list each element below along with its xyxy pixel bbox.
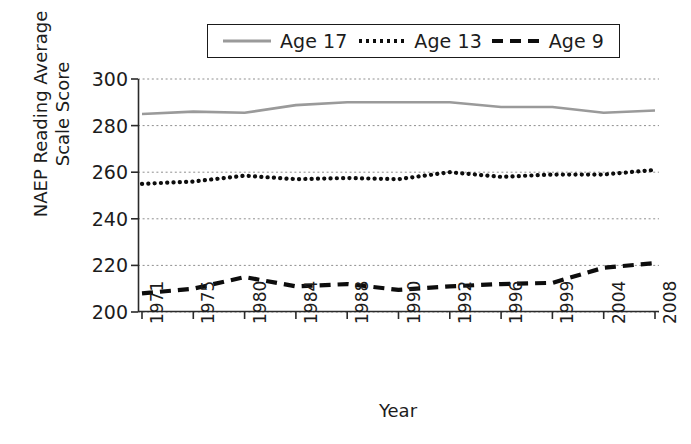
y-axis-title-text: NAEP Reading Average Scale Score bbox=[30, 11, 73, 217]
naep-reading-line-chart: Age 17 Age 13 Age 9 NAEP Reading Average… bbox=[0, 0, 691, 444]
y-axis-tick-label: 200 bbox=[70, 303, 128, 322]
x-axis-tick-label: 1992 bbox=[457, 281, 474, 324]
y-axis-tick-label: 260 bbox=[70, 163, 128, 182]
x-axis-tick-label: 1984 bbox=[303, 281, 320, 324]
y-axis-tick-label: 280 bbox=[70, 117, 128, 136]
legend-entry-age-17: Age 17 bbox=[223, 32, 348, 51]
x-axis-tick-label: 1975 bbox=[200, 281, 217, 324]
y-axis-tick-label: 220 bbox=[70, 256, 128, 275]
chart-legend: Age 17 Age 13 Age 9 bbox=[207, 24, 620, 58]
y-axis-tick-label: 300 bbox=[70, 70, 128, 89]
x-axis-tick-label: 1999 bbox=[559, 281, 576, 324]
dotted-line-swatch bbox=[357, 34, 405, 48]
legend-label-age-17: Age 17 bbox=[280, 32, 348, 51]
legend-entry-age-9: Age 9 bbox=[492, 32, 604, 51]
y-axis-title: NAEP Reading Average Scale Score bbox=[30, 0, 74, 244]
series-line-age-17 bbox=[142, 102, 655, 114]
series-line-age-13 bbox=[142, 170, 655, 184]
solid-line-swatch bbox=[223, 34, 271, 48]
x-axis-tick-label: 1990 bbox=[406, 281, 423, 324]
legend-entry-age-13: Age 13 bbox=[357, 32, 482, 51]
plot-area bbox=[138, 79, 659, 312]
x-axis-title: Year bbox=[138, 400, 658, 421]
plot-canvas bbox=[138, 79, 659, 312]
x-axis-tick-label: 2008 bbox=[662, 281, 679, 324]
dashed-line-swatch bbox=[492, 34, 540, 48]
x-axis-tick-label: 1996 bbox=[508, 281, 525, 324]
legend-label-age-9: Age 9 bbox=[549, 32, 604, 51]
x-axis-tick-label: 1971 bbox=[149, 281, 166, 324]
y-axis-tick-label: 240 bbox=[70, 210, 128, 229]
x-axis-tick-label: 2004 bbox=[611, 281, 628, 324]
series-line-age-9 bbox=[142, 263, 655, 293]
x-axis-tick-label: 1988 bbox=[354, 281, 371, 324]
x-axis-tick-label: 1980 bbox=[252, 281, 269, 324]
legend-label-age-13: Age 13 bbox=[414, 32, 482, 51]
